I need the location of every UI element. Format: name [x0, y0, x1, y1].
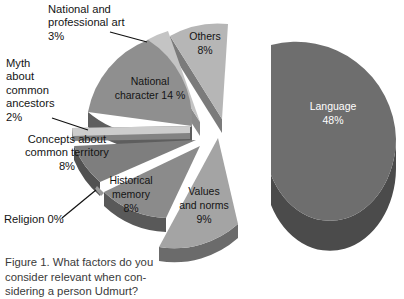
slice-values-norms-label2: and norms	[179, 199, 229, 211]
slice-others-percent: 8%	[197, 44, 212, 56]
figure-container: Language 48% Others 8% National characte…	[0, 0, 404, 299]
leader-line-myth	[52, 118, 88, 130]
leader-line-religion	[62, 190, 96, 218]
slice-historical-memory-label2: memory	[112, 188, 151, 200]
slice-values-norms-label: Values	[188, 185, 219, 197]
slice-historical-memory-label: Historical	[109, 174, 152, 186]
slice-language-percent: 48%	[322, 114, 343, 126]
slice-national-character-label2: character 14 %	[115, 89, 186, 101]
slice-language-top	[271, 42, 396, 221]
callout-concepts: Concepts about common territory 8%	[25, 133, 109, 173]
slice-language-label: Language	[310, 100, 357, 112]
slice-national-character-label: National	[131, 75, 170, 87]
callout-national-art: National and professional art 3%	[48, 3, 125, 43]
callout-myth: Myth about common ancestors 2%	[6, 57, 55, 124]
callout-religion: Religion 0%	[4, 213, 64, 226]
slice-historical-memory-percent: 8%	[123, 202, 138, 214]
slice-others-label: Others	[189, 30, 221, 42]
slice-values-norms-percent: 9%	[196, 213, 211, 225]
slice-language[interactable]: Language 48%	[271, 42, 396, 251]
figure-caption: Figure 1. What factors do you consider r…	[5, 255, 255, 299]
